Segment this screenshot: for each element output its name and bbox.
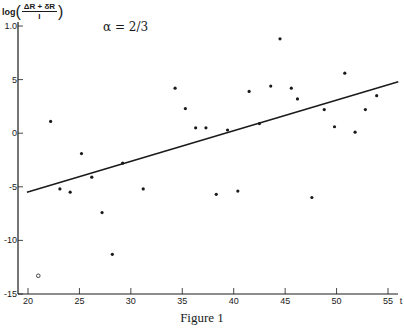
data-point [226,128,229,131]
y-axis-label-fraction: ΔR + δR I [22,2,57,21]
data-point [100,211,103,214]
data-point [353,131,356,134]
y-axis-label-denominator: I [38,12,40,21]
data-point [49,120,52,123]
data-point [290,87,293,90]
x-tick-label: 55 [383,296,393,306]
x-tick-label: 40 [229,296,239,306]
data-point [323,108,326,111]
data-point [173,87,176,90]
alpha-annotation: α = 2/3 [103,20,148,34]
data-point [80,152,83,155]
data-point [121,162,124,165]
y-tick-label: 0 [12,128,17,138]
x-axis-label: t [400,296,403,306]
figure-caption: Figure 1 [0,310,404,326]
data-point [343,72,346,75]
x-tick-label: 20 [23,296,33,306]
data-point [69,191,72,194]
x-tick-label: 25 [74,296,84,306]
data-point [215,193,218,196]
y-tick-label: 1.0 [4,21,17,31]
data-point [278,37,281,40]
paren-right: ) [58,4,63,20]
data-point [375,94,378,97]
ticks: 2025303540455055t1.050-5-10-15 [4,21,403,306]
y-axis-label: log ( ΔR + δR I ) [2,2,63,21]
axes [18,22,398,294]
data-point [310,196,313,199]
data-point [58,187,61,190]
data-point [236,189,239,192]
outlier-point [36,274,40,278]
x-tick-label: 35 [177,296,187,306]
data-point [204,126,207,129]
data-point [258,122,261,125]
data-points [36,37,378,277]
y-tick-label: -15 [4,289,17,299]
y-axis-label-log: log [2,7,16,17]
data-point [184,107,187,110]
fit-line [27,82,398,192]
data-point [248,90,251,93]
data-point [111,253,114,256]
x-tick-label: 30 [126,296,136,306]
y-tick-label: -10 [4,235,17,245]
scatter-chart: 2025303540455055t1.050-5-10-15 [0,0,404,332]
regression-line [27,82,398,192]
data-point [194,126,197,129]
x-tick-label: 45 [280,296,290,306]
data-point [142,187,145,190]
y-tick-label: 5 [12,75,17,85]
paren-left: ( [16,4,21,20]
data-point [364,108,367,111]
data-point [296,97,299,100]
y-tick-label: -5 [9,182,17,192]
data-point [90,176,93,179]
x-tick-label: 50 [332,296,342,306]
data-point [333,125,336,128]
data-point [269,84,272,87]
y-axis-label-numerator: ΔR + δR [22,2,57,12]
